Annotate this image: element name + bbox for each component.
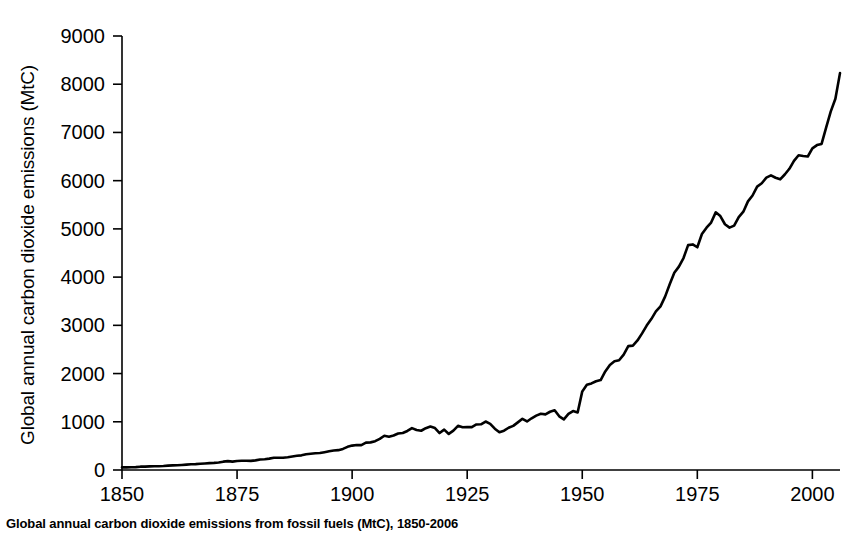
y-tick-label: 9000 <box>35 26 105 46</box>
x-tick-label: 1925 <box>427 484 507 504</box>
x-tick-label: 2000 <box>772 484 852 504</box>
y-axis-tick-marks <box>113 36 122 470</box>
x-tick-label: 1900 <box>312 484 392 504</box>
y-tick-label: 8000 <box>35 74 105 94</box>
x-tick-label: 1950 <box>542 484 622 504</box>
chart-svg <box>0 0 864 505</box>
y-tick-label: 3000 <box>35 315 105 335</box>
y-tick-label: 1000 <box>35 412 105 432</box>
figure-caption: Global annual carbon dioxide emissions f… <box>6 516 864 531</box>
y-tick-label: 4000 <box>35 267 105 287</box>
x-tick-label: 1975 <box>657 484 737 504</box>
y-tick-label: 6000 <box>35 171 105 191</box>
x-axis-tick-marks <box>122 470 812 479</box>
y-tick-label: 7000 <box>35 122 105 142</box>
emissions-data-line <box>122 73 840 467</box>
y-tick-label: 5000 <box>35 219 105 239</box>
chart-plot-area: 0100020003000400050006000700080009000 18… <box>0 0 864 505</box>
figure-container: Global annual carbon dioxide emissions (… <box>0 0 864 533</box>
y-tick-label: 0 <box>35 460 105 480</box>
x-tick-label: 1850 <box>82 484 162 504</box>
x-tick-label: 1875 <box>197 484 277 504</box>
y-tick-label: 2000 <box>35 364 105 384</box>
